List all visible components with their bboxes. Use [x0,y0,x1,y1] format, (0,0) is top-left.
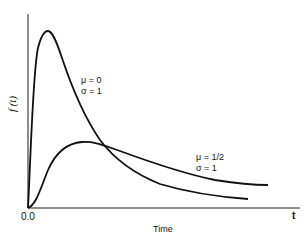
curve1-label-sigma: σ = 1 [81,86,102,96]
curve2-label-sigma: σ = 1 [196,163,217,173]
chart-canvas [0,0,307,239]
x-origin-label: 0.0 [21,212,35,222]
curve2-label-mu: μ = 1/2 [196,152,224,162]
y-axis-label: f (t) [6,96,18,112]
x-axis-end-label: t [292,211,295,221]
curve1-label-mu: μ = 0 [81,75,101,85]
x-axis-label: Time [153,224,173,234]
curve-mu0-sigma1 [28,31,248,208]
